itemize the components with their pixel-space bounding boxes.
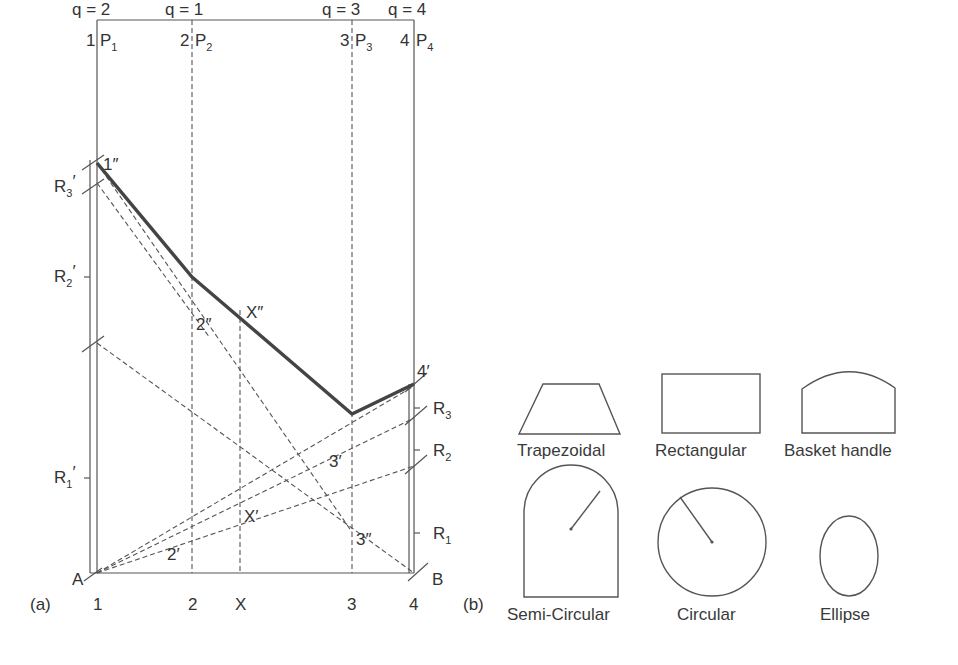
- tick-left-mid: [82, 336, 104, 352]
- label-b: B: [432, 570, 443, 589]
- tick-b: [408, 563, 428, 581]
- tick-right-r2a: [405, 455, 427, 474]
- panel-b: (b) Trapezoidal Rectangular Basket handl…: [463, 372, 895, 624]
- panel-b-tag: (b): [463, 595, 484, 614]
- ellipse-shape-icon: [820, 516, 878, 596]
- section-point-4: P4: [416, 31, 433, 53]
- q-label-2: q = 1: [165, 0, 203, 19]
- bottom-label-1: 1: [93, 595, 102, 614]
- basket-handle-label: Basket handle: [784, 441, 892, 460]
- trapezoidal-label: Trapezoidal: [517, 441, 605, 460]
- label-1-double-prime: 1″: [103, 155, 118, 174]
- circular-center-dot: [710, 540, 713, 543]
- label-r3-prime: R3′: [54, 172, 76, 199]
- section-number-1: 1: [86, 31, 95, 50]
- semi-circular-radius: [571, 491, 600, 529]
- label-r1-prime: R1′: [54, 463, 76, 490]
- section-number-2: 2: [180, 31, 189, 50]
- label-r2-prime: R2′: [54, 262, 76, 289]
- panel-a: q = 2 q = 1 q = 3 q = 4 1 P1 2 P2 3 P3 4…: [30, 0, 451, 614]
- bottom-label-2: 2: [188, 595, 197, 614]
- circular-radius: [680, 497, 712, 542]
- label-x-prime: X′: [244, 507, 259, 526]
- basket-handle-shape-icon: [802, 372, 895, 433]
- diagram-canvas: q = 2 q = 1 q = 3 q = 4 1 P1 2 P2 3 P3 4…: [0, 0, 958, 665]
- line-r3-2dbl: [97, 183, 210, 338]
- bottom-label-3: 3: [347, 595, 356, 614]
- q-label-1: q = 2: [72, 0, 110, 19]
- label-r1: R1: [433, 524, 451, 546]
- section-point-2: P2: [195, 31, 212, 53]
- tick-left-r3: [82, 179, 104, 194]
- rectangular-shape-icon: [662, 374, 760, 433]
- tick-right-r3a: [405, 406, 427, 425]
- label-x-double-prime: X″: [246, 303, 263, 322]
- circular-label: Circular: [677, 605, 736, 624]
- label-r3: R3: [433, 399, 451, 421]
- bottom-label-x: X: [235, 595, 246, 614]
- line-a-r3: [97, 418, 414, 573]
- section-number-4: 4: [400, 31, 409, 50]
- semi-circular-shape-icon: [524, 465, 618, 597]
- panel-a-tag: (a): [30, 595, 51, 614]
- q-label-3: q = 3: [322, 0, 360, 19]
- section-point-3: P3: [355, 31, 372, 53]
- ellipse-label: Ellipse: [820, 605, 870, 624]
- section-number-3: 3: [340, 31, 349, 50]
- q-label-4: q = 4: [388, 0, 426, 19]
- semi-circular-center-dot: [569, 527, 572, 530]
- label-4-prime: 4′: [417, 362, 430, 381]
- rectangular-label: Rectangular: [655, 441, 747, 460]
- label-3-prime: 3′: [329, 452, 342, 471]
- label-2-double-prime: 2″: [196, 315, 211, 334]
- bottom-label-4: 4: [409, 595, 418, 614]
- line-1dbl-3dbl: [97, 163, 352, 532]
- influence-line: [97, 163, 414, 414]
- label-a: A: [72, 570, 84, 589]
- trapezoidal-shape-icon: [519, 384, 620, 434]
- semi-circular-label: Semi-Circular: [507, 605, 610, 624]
- tick-a: [84, 568, 102, 581]
- label-2-prime: 2′: [167, 545, 180, 564]
- section-point-1: P1: [100, 31, 117, 53]
- label-r2: R2: [433, 441, 451, 463]
- label-3-double-prime: 3″: [356, 530, 371, 549]
